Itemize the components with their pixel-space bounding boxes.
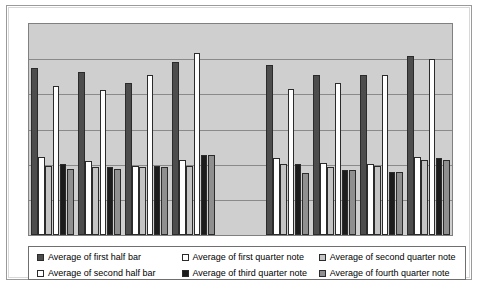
legend-swatch-icon bbox=[37, 254, 44, 261]
bar bbox=[295, 164, 302, 235]
bar bbox=[320, 163, 327, 235]
bar bbox=[273, 158, 280, 235]
bar-group bbox=[170, 24, 217, 235]
legend-row: Average of second half bar Average of th… bbox=[29, 266, 465, 281]
bar bbox=[125, 83, 132, 235]
bar bbox=[335, 83, 342, 235]
chart-screenshot: Average of first half bar Average of fir… bbox=[0, 0, 482, 289]
bar bbox=[302, 173, 309, 235]
bar bbox=[147, 75, 154, 235]
legend-label: Average of second half bar bbox=[48, 268, 155, 279]
bar bbox=[139, 167, 146, 235]
bar bbox=[208, 155, 215, 235]
legend-swatch-icon bbox=[319, 270, 326, 277]
legend-item-second-half-bar: Average of second half bar bbox=[29, 268, 182, 279]
bar bbox=[186, 166, 193, 235]
bar bbox=[382, 75, 389, 235]
bar-group bbox=[358, 24, 405, 235]
bar bbox=[349, 170, 356, 235]
bar bbox=[31, 68, 38, 235]
bar bbox=[396, 172, 403, 235]
legend-label: Average of first quarter note bbox=[193, 252, 304, 263]
bar bbox=[161, 167, 168, 235]
bar bbox=[436, 158, 443, 235]
bar bbox=[367, 164, 374, 235]
legend-swatch-icon bbox=[182, 254, 189, 261]
bar bbox=[194, 53, 201, 235]
bar bbox=[100, 90, 107, 235]
bar bbox=[266, 65, 273, 235]
bar bbox=[53, 86, 60, 235]
bar bbox=[172, 62, 179, 235]
bar bbox=[374, 166, 381, 235]
bar-group bbox=[264, 24, 311, 235]
bar bbox=[67, 169, 74, 235]
bar bbox=[154, 166, 161, 235]
bar bbox=[414, 157, 421, 235]
bar bbox=[38, 157, 45, 235]
legend-row: Average of first half bar Average of fir… bbox=[29, 250, 465, 265]
bar bbox=[78, 72, 85, 235]
bar-group bbox=[405, 24, 452, 235]
bar bbox=[327, 167, 334, 235]
bar-group bbox=[311, 24, 358, 235]
bar bbox=[443, 160, 450, 235]
bar-group bbox=[29, 24, 76, 235]
legend-item-second-quarter-note: Average of second quarter note bbox=[319, 252, 465, 263]
bar bbox=[389, 172, 396, 235]
chart-frame: Average of first half bar Average of fir… bbox=[6, 5, 472, 280]
legend-label: Average of third quarter note bbox=[193, 268, 307, 279]
legend-item-fourth-quarter-note: Average of fourth quarter note bbox=[319, 268, 465, 279]
bar bbox=[132, 166, 139, 235]
bar bbox=[45, 166, 52, 235]
legend-swatch-icon bbox=[37, 270, 44, 277]
bar bbox=[280, 164, 287, 235]
bar-series-layer bbox=[29, 24, 452, 235]
bar-group bbox=[217, 24, 264, 235]
legend-swatch-icon bbox=[182, 270, 189, 277]
legend-item-first-half-bar: Average of first half bar bbox=[29, 252, 182, 263]
bar bbox=[288, 89, 295, 235]
bar-group bbox=[123, 24, 170, 235]
legend-label: Average of second quarter note bbox=[330, 252, 456, 263]
bar bbox=[429, 59, 436, 235]
bar bbox=[360, 75, 367, 235]
chart-legend: Average of first half bar Average of fir… bbox=[28, 246, 466, 280]
bar bbox=[407, 56, 414, 235]
bar-group bbox=[76, 24, 123, 235]
bar bbox=[342, 170, 349, 235]
bar bbox=[313, 75, 320, 235]
bar bbox=[107, 167, 114, 235]
bar bbox=[179, 160, 186, 235]
bar bbox=[92, 167, 99, 235]
legend-swatch-icon bbox=[319, 254, 326, 261]
bar bbox=[85, 161, 92, 235]
bar bbox=[114, 169, 121, 235]
legend-label: Average of first half bar bbox=[48, 252, 141, 263]
legend-item-third-quarter-note: Average of third quarter note bbox=[182, 268, 319, 279]
bar bbox=[421, 160, 428, 235]
bar bbox=[60, 164, 67, 235]
plot-area bbox=[28, 23, 453, 236]
legend-item-first-quarter-note: Average of first quarter note bbox=[182, 252, 319, 263]
legend-label: Average of fourth quarter note bbox=[330, 268, 450, 279]
bar bbox=[201, 155, 208, 235]
